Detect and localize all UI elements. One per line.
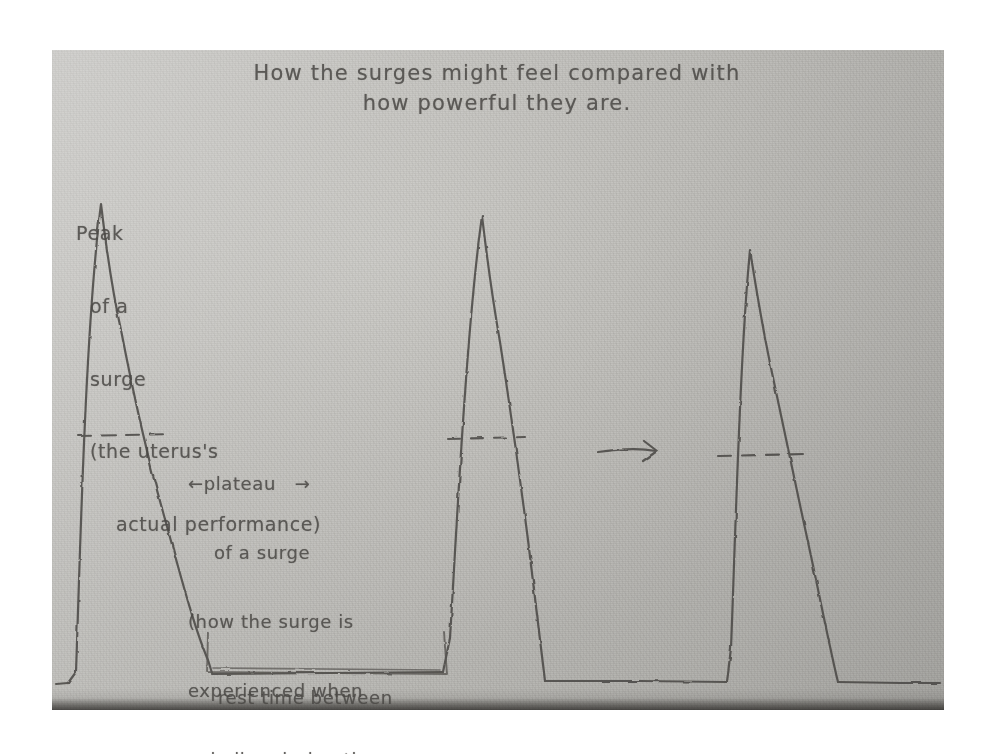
annotation-plateau-line-2: of a surge [188,541,375,564]
annotation-rest-line-1: rest time between [218,686,393,709]
screenshot-root: How the surges might feel compared with … [0,0,994,754]
annotation-rest-time: rest time between surges [218,640,393,754]
annotation-plateau-line-1: ←plateau → [188,472,375,495]
annotation-plateau-line-3: (how the surge is [188,610,375,633]
page-title: How the surges might feel compared with … [0,58,994,119]
annotation-peak-line-3: surge [76,367,321,391]
annotation-peak-line-1: Peak [76,221,321,245]
annotation-peak-line-2: of a [76,294,321,318]
